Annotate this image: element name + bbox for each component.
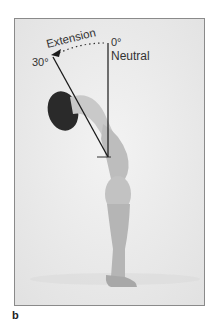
- panel-label: b: [12, 309, 19, 321]
- photo-figure: Extension 0° Neutral 30°: [14, 18, 205, 306]
- neutral-label: Neutral: [111, 50, 150, 62]
- extension-angle-label: 30°: [32, 57, 49, 68]
- neutral-angle-label: 0°: [111, 37, 122, 48]
